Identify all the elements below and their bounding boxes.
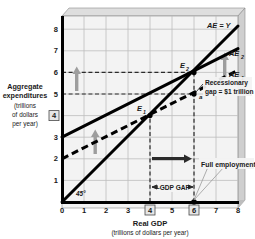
x-tick-1: 1 [82,206,86,215]
y-axis-title: Aggregate expenditures (trillions of dol… [3,82,48,128]
y-axis-title-line-4: of dollars [12,111,38,118]
x-axis-title: Real GDP [133,219,168,228]
annotation-gdp-gap-label: –GDP GAP [156,184,191,191]
y-tick-3: 3 [54,133,58,142]
point-label-a: a [199,93,203,100]
x-tick-0: 0 [60,206,64,215]
series-label-ae-equals-y: AE = Y [206,21,232,30]
point-E1 [147,113,152,118]
x-tick-5: 5 [170,206,174,215]
series-label-ae2-subscript: 2 [240,54,244,60]
y-tick-2: 2 [54,154,58,163]
point-E2 [191,70,196,75]
annotation-recessionary-gap-line-1: Recessionary [205,79,248,87]
frame-3d-right [238,8,245,208]
point-label-E1-subscript: 1 [143,109,146,115]
y-axis-title-line-1: Aggregate [7,82,43,91]
chart-figure: 8 7 6 5 3 2 1 4 0 1 2 3 5 7 8 4 6 Real G… [0,0,255,239]
y-tick-labels: 8 7 6 5 3 2 1 [54,25,58,185]
y-axis-title-line-3: (trillions [14,102,36,110]
annotation-recessionary-gap: Recessionary gap = $1 trillion [203,77,254,96]
x-tick-2: 2 [104,206,108,215]
annotation-full-employment-label: Full employment [201,161,255,169]
x-tick-7: 7 [214,206,218,215]
y-tick-6: 6 [54,68,58,77]
point-label-E2-subscript: 2 [185,66,189,72]
x-tick-6: 6 [192,206,196,215]
y-tick-1: 1 [54,176,58,185]
y-axis-title-line-2: expenditures [3,91,48,100]
x-tick-8: 8 [236,206,240,215]
annotation-45-degree: 45° [75,190,86,197]
x-tick-3: 3 [126,206,130,215]
point-a [191,91,196,96]
annotation-gdp-gap: –GDP GAP [156,181,191,192]
y-tick-5: 5 [54,90,58,99]
y-axis-title-line-5: per year) [12,120,38,128]
y-tick-7: 7 [54,46,58,55]
annotation-full-employment: Full employment [199,158,255,169]
y-tick-8: 8 [54,25,58,34]
frame-3d-top [62,8,245,16]
series-label-ae2: AE [228,49,240,58]
x-axis-subtitle: (trillions of dollars per year) [111,229,188,237]
chart-svg: 8 7 6 5 3 2 1 4 0 1 2 3 5 7 8 4 6 Real G… [0,0,255,239]
annotation-recessionary-gap-line-2: gap = $1 trillion [205,88,254,96]
